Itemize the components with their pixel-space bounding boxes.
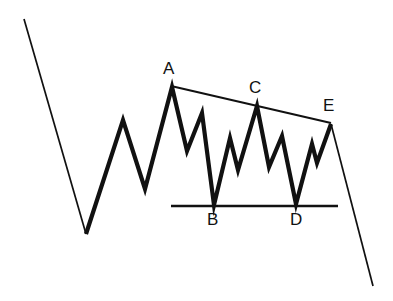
pattern-chart-svg <box>0 0 393 301</box>
series-lead-in-decline <box>24 19 86 234</box>
point-label-d: D <box>290 211 302 228</box>
point-label-e: E <box>323 97 334 114</box>
pattern-figure: A B C D E <box>0 0 393 301</box>
point-label-c: C <box>249 79 261 96</box>
point-label-a: A <box>163 60 174 77</box>
point-label-b: B <box>207 211 218 228</box>
chart-series-group <box>24 19 373 286</box>
